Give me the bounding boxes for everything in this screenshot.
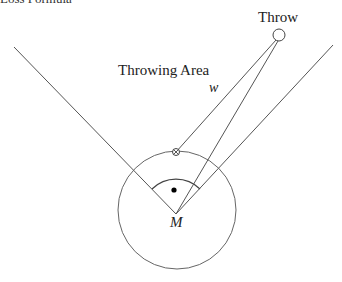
throw-point-circle: [273, 29, 285, 41]
angle-arc: [152, 179, 200, 189]
throw-label: Throw: [258, 9, 298, 26]
center-dot: [171, 187, 176, 192]
line-marker-to-throw: [176, 40, 276, 152]
crossed-circle-marker: [173, 149, 180, 156]
throwing-area-label: Throwing Area: [118, 62, 209, 79]
m-label: M: [170, 214, 183, 231]
w-label: w: [209, 80, 218, 96]
throwing-diagram: [0, 0, 342, 282]
